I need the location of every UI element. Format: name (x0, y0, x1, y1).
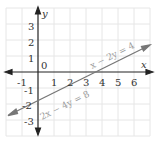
y-axis-label: y (41, 8, 48, 19)
y-axis-down-arrow-icon (36, 128, 41, 135)
y-tick-label: -3 (24, 116, 34, 127)
x-tick-label: 6 (131, 77, 137, 88)
x-tick-label: 1 (51, 77, 57, 88)
y-tick-label: 2 (28, 37, 34, 48)
y-tick-label: 1 (28, 53, 34, 64)
equation-label-2x-4y-8: 2x − 4y = 8 (38, 89, 91, 122)
x-axis-right-arrow-icon (146, 70, 153, 75)
x-tick-label: 3 (83, 77, 89, 88)
x-tick-label: 4 (99, 77, 105, 88)
x-axis-label: x (141, 59, 147, 70)
line-upper-arrow-icon (142, 45, 151, 51)
origin-label: 0 (41, 60, 47, 71)
y-tick-label: -2 (22, 100, 32, 111)
line-lower-arrow-icon (8, 109, 18, 116)
graph-svg: -1 1 2 3 4 5 6 3 2 1 -1 -2 -3 0 y x x − … (0, 0, 161, 145)
y-tick-label: 3 (28, 21, 34, 32)
coordinate-plane: -1 1 2 3 4 5 6 3 2 1 -1 -2 -3 0 y x x − … (0, 0, 161, 145)
x-tick-label: 5 (115, 77, 121, 88)
y-tick-label: -1 (24, 85, 34, 96)
x-axis (5, 70, 153, 75)
x-tick-label: 2 (67, 77, 73, 88)
